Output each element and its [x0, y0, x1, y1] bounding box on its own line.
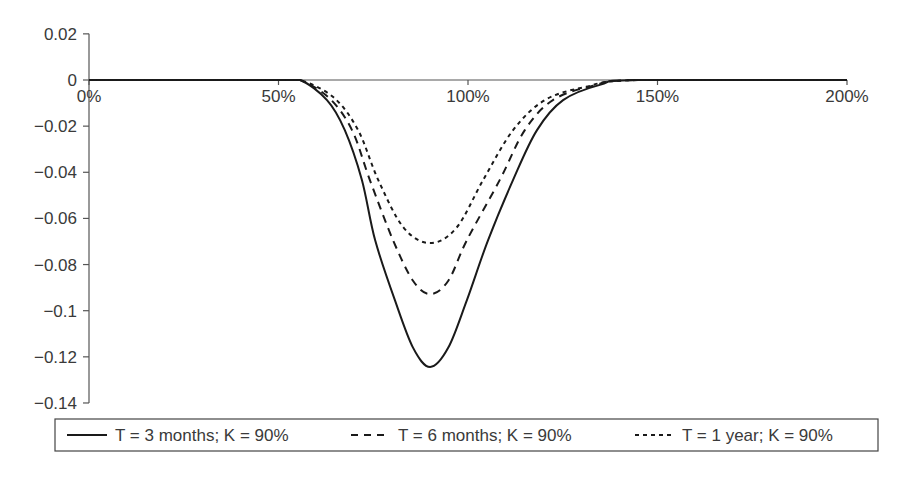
- legend: T = 3 months; K = 90% T = 6 months; K = …: [55, 419, 878, 451]
- series-line-solid: [89, 80, 847, 367]
- x-tick-label: 150%: [636, 87, 679, 106]
- chart: 0.020−0.02−0.04−0.06−0.08−0.1−0.12−0.14 …: [0, 0, 899, 478]
- y-tick-label: −0.02: [34, 117, 77, 136]
- x-axis: 0%50%100%150%200%: [77, 80, 869, 106]
- y-tick-label: −0.04: [34, 163, 77, 182]
- x-tick-label: 200%: [825, 87, 868, 106]
- y-tick-label: −0.14: [34, 394, 77, 413]
- y-axis: 0.020−0.02−0.04−0.06−0.08−0.1−0.12−0.14: [34, 25, 89, 413]
- legend-label: T = 3 months; K = 90%: [115, 426, 289, 445]
- x-tick-label: 50%: [261, 87, 295, 106]
- y-tick-label: −0.1: [43, 302, 77, 321]
- x-tick-label: 0%: [77, 87, 102, 106]
- y-tick-label: 0.02: [44, 25, 77, 44]
- y-tick-label: −0.12: [34, 348, 77, 367]
- y-tick-label: −0.08: [34, 256, 77, 275]
- y-tick-label: 0: [68, 71, 77, 90]
- legend-label: T = 1 year; K = 90%: [682, 426, 833, 445]
- series-line-dashed: [89, 80, 847, 294]
- y-tick-label: −0.06: [34, 209, 77, 228]
- legend-label: T = 6 months; K = 90%: [398, 426, 572, 445]
- x-tick-label: 100%: [446, 87, 489, 106]
- plot-area: [89, 80, 847, 367]
